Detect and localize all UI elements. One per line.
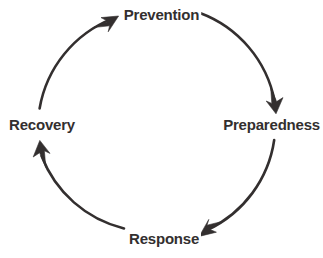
stage-label-preparedness: Preparedness: [221, 117, 322, 133]
arrow-to-recovery-head: [33, 140, 50, 167]
arc-recovery-to-prevention: [40, 19, 113, 109]
arc-preparedness-to-response: [208, 140, 274, 230]
arc-prevention-to-preparedness: [200, 13, 275, 101]
arc-response-to-recovery: [42, 156, 124, 228]
arrow-to-prevention-head: [93, 16, 119, 32]
stage-label-prevention: Prevention: [122, 7, 202, 23]
emergency-management-cycle-diagram: Prevention Preparedness Response Recover…: [0, 0, 323, 258]
stage-label-response: Response: [127, 231, 201, 247]
arrow-to-preparedness-head: [266, 87, 283, 114]
stage-label-recovery: Recovery: [7, 117, 77, 133]
arrow-to-response-head: [199, 219, 223, 236]
